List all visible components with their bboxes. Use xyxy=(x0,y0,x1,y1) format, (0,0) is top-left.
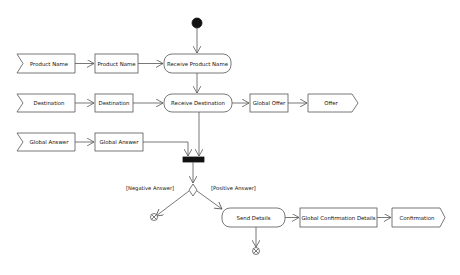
flow-final-send xyxy=(253,248,260,255)
action-receive-destination[interactable] xyxy=(164,94,232,112)
guard-positive-answer: [Positive Answer] xyxy=(211,185,256,191)
activity-diagram xyxy=(0,0,460,275)
send-signal-confirmation[interactable] xyxy=(392,208,445,227)
object-global-confirmation-details[interactable] xyxy=(300,208,377,227)
action-receive-product-name[interactable] xyxy=(164,54,231,73)
accept-event-global-answer[interactable] xyxy=(17,133,75,151)
object-destination[interactable] xyxy=(95,94,133,112)
initial-node xyxy=(192,18,202,28)
object-global-answer[interactable] xyxy=(95,133,143,151)
guard-negative-answer: [Negative Answer] xyxy=(126,185,174,191)
accept-event-destination[interactable] xyxy=(17,94,75,112)
action-send-details[interactable] xyxy=(222,208,285,227)
decision-node xyxy=(189,184,197,196)
object-product-name[interactable] xyxy=(95,54,138,73)
object-global-offer[interactable] xyxy=(250,94,288,112)
accept-event-product-name[interactable] xyxy=(17,54,75,73)
join-bar xyxy=(183,157,204,162)
send-signal-offer[interactable] xyxy=(308,94,358,112)
flow-final-negative xyxy=(151,214,158,221)
